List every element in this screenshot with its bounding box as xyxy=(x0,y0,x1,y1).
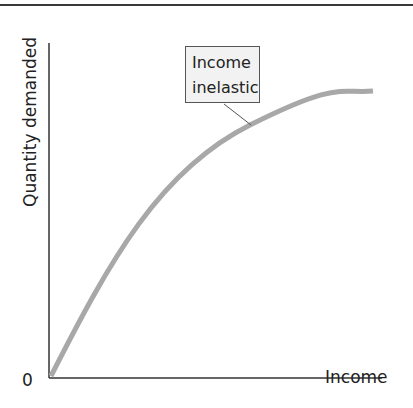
origin-label: 0 xyxy=(22,370,33,390)
callout-line-2: inelastic xyxy=(192,75,259,100)
callout-leader-line xyxy=(224,104,251,125)
income-inelastic-callout: Income inelastic xyxy=(185,46,260,103)
y-axis-label: Quantity demanded xyxy=(20,37,40,207)
x-axis-label: Income xyxy=(325,367,388,387)
demand-curve xyxy=(51,91,373,376)
callout-line-1: Income xyxy=(192,50,259,75)
